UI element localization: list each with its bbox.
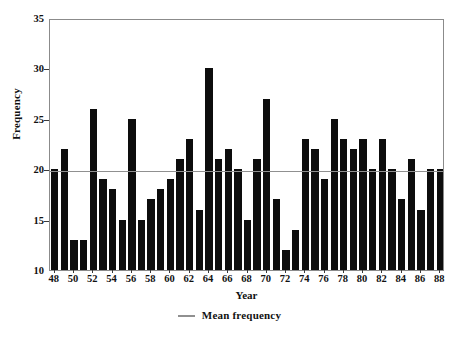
bars-layer xyxy=(50,20,443,270)
x-tick-label-86: 86 xyxy=(415,274,426,285)
bar xyxy=(147,199,154,270)
bar xyxy=(388,169,395,270)
y-tick-label-35: 35 xyxy=(18,14,44,25)
x-tick-mark-56 xyxy=(131,270,132,273)
bar xyxy=(282,250,289,270)
x-tick-label-66: 66 xyxy=(222,274,233,285)
x-tick-mark-52 xyxy=(92,270,93,273)
x-tick-label-56: 56 xyxy=(126,274,137,285)
x-tick-label-80: 80 xyxy=(357,274,368,285)
x-tick-label-82: 82 xyxy=(376,274,387,285)
x-tick-label-78: 78 xyxy=(338,274,349,285)
bar xyxy=(244,220,251,270)
bar xyxy=(186,139,193,270)
bar xyxy=(109,189,116,270)
bar xyxy=(167,179,174,270)
frequency-by-year-bar-chart: Frequency 101520253035 48505254565860626… xyxy=(0,0,459,337)
x-axis-tick-labels: 4850525456586062646668707274767880828486… xyxy=(49,274,444,290)
x-tick-mark-66 xyxy=(227,270,228,273)
bar xyxy=(331,119,338,270)
bar xyxy=(273,199,280,270)
x-tick-mark-68 xyxy=(247,270,248,273)
bar xyxy=(196,210,203,270)
x-tick-mark-58 xyxy=(150,270,151,273)
x-tick-mark-64 xyxy=(208,270,209,273)
bar xyxy=(225,149,232,270)
bar xyxy=(119,220,126,270)
bar xyxy=(359,139,366,270)
y-axis-tick-labels: 101520253035 xyxy=(14,0,44,337)
x-tick-mark-88 xyxy=(439,270,440,273)
legend: Mean frequency xyxy=(0,309,459,321)
x-tick-label-54: 54 xyxy=(106,274,117,285)
x-tick-label-74: 74 xyxy=(299,274,310,285)
x-tick-mark-74 xyxy=(304,270,305,273)
y-tick-label-25: 25 xyxy=(18,115,44,126)
bar xyxy=(51,169,58,270)
bar xyxy=(340,139,347,270)
bar xyxy=(70,240,77,270)
x-tick-mark-80 xyxy=(362,270,363,273)
x-tick-mark-72 xyxy=(285,270,286,273)
x-tick-mark-78 xyxy=(343,270,344,273)
x-tick-mark-54 xyxy=(112,270,113,273)
x-tick-mark-82 xyxy=(381,270,382,273)
bar xyxy=(398,199,405,270)
x-tick-label-52: 52 xyxy=(87,274,98,285)
x-tick-label-50: 50 xyxy=(68,274,79,285)
x-tick-mark-84 xyxy=(401,270,402,273)
bar xyxy=(437,169,444,270)
x-tick-label-58: 58 xyxy=(145,274,156,285)
y-tick-label-15: 15 xyxy=(18,215,44,226)
x-tick-mark-70 xyxy=(266,270,267,273)
y-tick-label-30: 30 xyxy=(18,64,44,75)
x-tick-label-62: 62 xyxy=(183,274,194,285)
legend-label-mean-frequency: Mean frequency xyxy=(202,309,281,321)
plot-area xyxy=(49,19,444,271)
x-tick-label-70: 70 xyxy=(261,274,272,285)
bar xyxy=(80,240,87,270)
x-tick-label-84: 84 xyxy=(395,274,406,285)
bar xyxy=(408,159,415,270)
bar xyxy=(215,159,222,270)
bar xyxy=(61,149,68,270)
x-tick-label-76: 76 xyxy=(318,274,329,285)
bar xyxy=(90,109,97,270)
bar xyxy=(157,189,164,270)
bar xyxy=(99,179,106,270)
y-tick-label-20: 20 xyxy=(18,165,44,176)
x-tick-label-64: 64 xyxy=(203,274,214,285)
bar xyxy=(263,99,270,270)
bar xyxy=(234,169,241,270)
bar xyxy=(302,139,309,270)
bar xyxy=(311,149,318,270)
bar xyxy=(253,159,260,270)
bar xyxy=(321,179,328,270)
x-tick-label-60: 60 xyxy=(164,274,175,285)
y-tick-label-10: 10 xyxy=(18,266,44,277)
x-tick-label-48: 48 xyxy=(49,274,60,285)
x-tick-mark-50 xyxy=(73,270,74,273)
bar xyxy=(417,210,424,270)
bar xyxy=(427,169,434,270)
bar xyxy=(128,119,135,270)
x-tick-mark-62 xyxy=(189,270,190,273)
legend-line-swatch xyxy=(178,315,195,317)
bar xyxy=(350,149,357,270)
bar xyxy=(292,230,299,270)
x-tick-mark-48 xyxy=(54,270,55,273)
bar xyxy=(176,159,183,270)
x-tick-mark-60 xyxy=(169,270,170,273)
x-tick-mark-86 xyxy=(420,270,421,273)
x-axis-title: Year xyxy=(49,289,444,301)
bar xyxy=(369,169,376,270)
bar xyxy=(205,68,212,270)
x-tick-label-88: 88 xyxy=(434,274,445,285)
x-tick-label-72: 72 xyxy=(280,274,291,285)
bar xyxy=(379,139,386,270)
bar xyxy=(138,220,145,270)
x-tick-label-68: 68 xyxy=(241,274,252,285)
x-tick-mark-76 xyxy=(324,270,325,273)
mean-frequency-line xyxy=(50,171,443,172)
